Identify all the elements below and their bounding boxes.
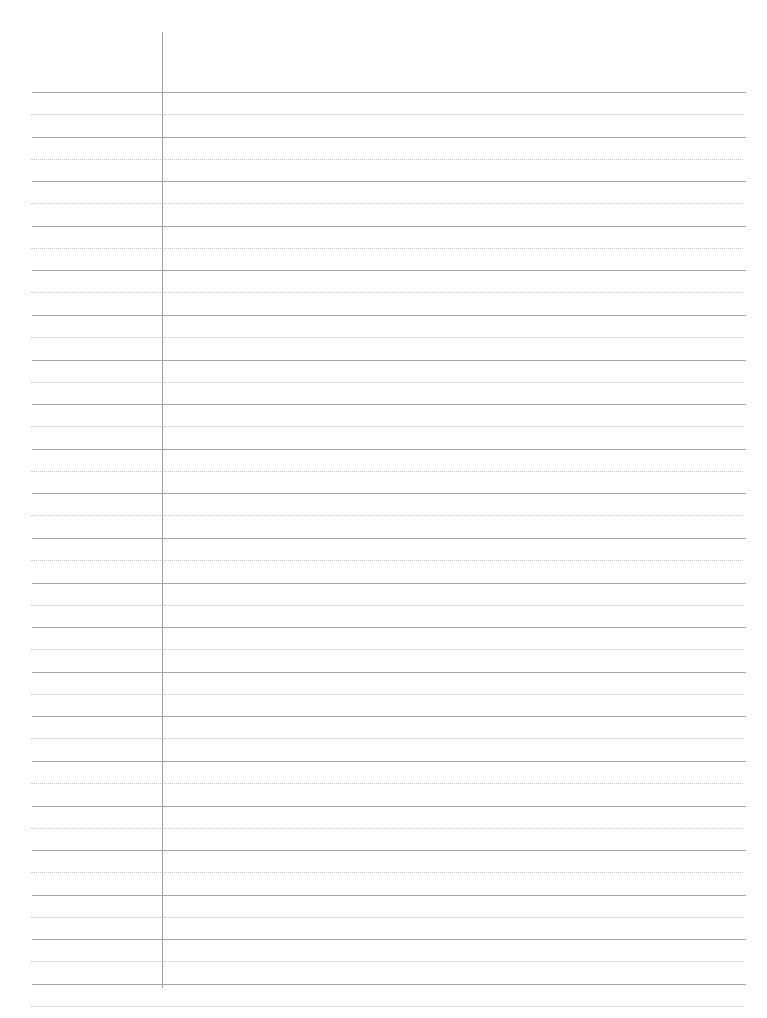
- ruled-line-dotted: [31, 872, 743, 873]
- ruled-line-dotted: [31, 605, 743, 606]
- ruled-line-solid: [32, 360, 746, 361]
- ruled-line-dotted: [31, 828, 743, 829]
- ruled-line-solid: [32, 493, 746, 494]
- ruled-line-dotted: [31, 649, 743, 650]
- ruled-line-dotted: [31, 515, 743, 516]
- ruled-line-solid: [32, 538, 746, 539]
- ruling-layer: [0, 0, 767, 1018]
- ruled-line-dotted: [31, 337, 743, 338]
- ruled-line-dotted: [31, 159, 743, 160]
- ruled-line-solid: [32, 939, 746, 940]
- ruled-line-solid: [32, 984, 746, 985]
- ruled-line-solid: [32, 270, 746, 271]
- ruled-line-solid: [32, 761, 746, 762]
- ruled-line-dotted: [31, 114, 743, 115]
- ruled-line-dotted: [31, 1006, 743, 1007]
- ruled-line-dotted: [31, 738, 743, 739]
- ruled-line-dotted: [31, 783, 743, 784]
- ruled-line-solid: [32, 92, 746, 93]
- ruled-line-solid: [32, 315, 746, 316]
- ruled-line-dotted: [31, 292, 743, 293]
- ruled-line-solid: [32, 449, 746, 450]
- ruled-line-dotted: [31, 203, 743, 204]
- ruled-line-dotted: [31, 248, 743, 249]
- notebook-page: [0, 0, 767, 1018]
- ruled-line-solid: [32, 137, 746, 138]
- ruled-line-dotted: [31, 382, 743, 383]
- ruled-line-solid: [32, 627, 746, 628]
- ruled-line-solid: [32, 716, 746, 717]
- ruled-line-dotted: [31, 560, 743, 561]
- ruled-line-dotted: [31, 961, 743, 962]
- ruled-line-solid: [32, 181, 746, 182]
- ruled-line-dotted: [31, 471, 743, 472]
- ruled-line-solid: [32, 850, 746, 851]
- ruled-line-dotted: [31, 426, 743, 427]
- ruled-line-solid: [32, 672, 746, 673]
- margin-vertical-rule: [162, 32, 163, 988]
- ruled-line-solid: [32, 895, 746, 896]
- ruled-line-dotted: [31, 917, 743, 918]
- ruled-line-solid: [32, 583, 746, 584]
- ruled-line-solid: [32, 226, 746, 227]
- ruled-line-solid: [32, 404, 746, 405]
- ruled-line-dotted: [31, 694, 743, 695]
- ruled-line-solid: [32, 806, 746, 807]
